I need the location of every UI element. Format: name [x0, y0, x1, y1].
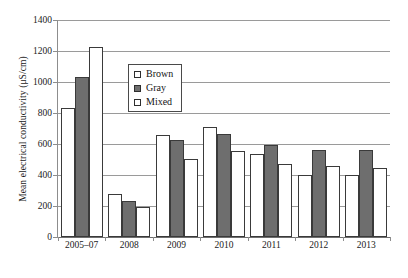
x-tick-label: 2009 [153, 240, 200, 250]
y-tick-label: 600 [38, 139, 52, 149]
bar-group [295, 20, 342, 237]
bar-brown [345, 175, 359, 237]
bar-brown [298, 175, 312, 237]
bar-gray [359, 150, 373, 237]
bar-group [343, 20, 390, 237]
bar-gray [75, 77, 89, 237]
bar-group [105, 20, 152, 237]
bar-brown [203, 127, 217, 237]
x-tick-mark [390, 237, 391, 241]
bar-groups [58, 20, 390, 237]
bar-group [248, 20, 295, 237]
legend-label: Mixed [146, 96, 172, 108]
y-tick-label: 0 [47, 232, 52, 242]
legend-item: Brown [134, 68, 173, 80]
y-tick-label: 1200 [33, 46, 52, 56]
plot-area: 0200400600800100012001400 [58, 20, 390, 237]
x-axis-line [57, 237, 390, 238]
y-tick-label: 1000 [33, 77, 52, 87]
x-tick-label: 2005–07 [58, 240, 105, 250]
bar-mixed [278, 164, 292, 237]
bar-mixed [89, 47, 103, 237]
legend-label: Gray [146, 82, 166, 94]
bar-brown [250, 154, 264, 237]
y-tick-label: 400 [38, 170, 52, 180]
legend-swatch-brown-icon [134, 71, 141, 78]
chart-figure: Mean electrical conductivity (μS/cm) 020… [0, 0, 408, 278]
x-tick-label: 2013 [343, 240, 390, 250]
bar-brown [108, 194, 122, 237]
x-tick-label: 2008 [105, 240, 152, 250]
legend-swatch-mixed-icon [134, 99, 141, 106]
legend-item: Gray [134, 82, 173, 94]
legend-item: Mixed [134, 96, 173, 108]
x-tick-label: 2010 [200, 240, 247, 250]
bar-gray [122, 201, 136, 237]
bar-group [153, 20, 200, 237]
y-axis-title: Mean electrical conductivity (μS/cm) [16, 20, 30, 238]
x-tick-label: 2011 [248, 240, 295, 250]
legend: BrownGrayMixed [128, 64, 182, 112]
bar-mixed [136, 207, 150, 237]
bar-group [200, 20, 247, 237]
bar-mixed [231, 151, 245, 237]
y-tick-label: 800 [38, 108, 52, 118]
y-tick-label: 200 [38, 201, 52, 211]
y-tick-label: 1400 [33, 15, 52, 25]
bar-mixed [373, 168, 387, 237]
bar-brown [61, 108, 75, 237]
legend-swatch-gray-icon [134, 85, 141, 92]
bar-brown [156, 135, 170, 237]
bar-gray [312, 150, 326, 237]
bar-gray [217, 134, 231, 237]
x-axis-labels: 2005–07200820092010201120122013 [58, 240, 390, 250]
bar-group [58, 20, 105, 237]
legend-label: Brown [146, 68, 173, 80]
bar-mixed [326, 166, 340, 237]
bar-mixed [184, 159, 198, 237]
x-tick-label: 2012 [295, 240, 342, 250]
bar-gray [170, 140, 184, 237]
bar-gray [264, 145, 278, 237]
